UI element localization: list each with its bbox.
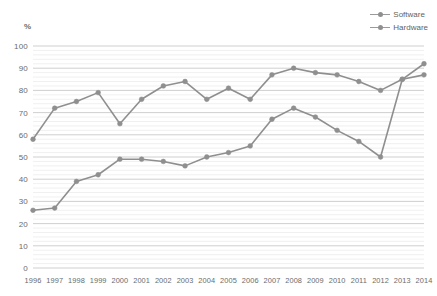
y-axis-tick-label: 60 xyxy=(2,130,28,139)
data-point-software-1999 xyxy=(96,90,101,95)
y-axis-tick-label: 0 xyxy=(2,264,28,273)
data-point-software-2006 xyxy=(248,97,253,102)
data-point-software-2004 xyxy=(204,97,209,102)
data-point-hardware-2004 xyxy=(204,155,209,160)
data-point-hardware-2000 xyxy=(117,157,122,162)
data-point-software-2012 xyxy=(378,88,383,93)
legend-label-hardware: Hardware xyxy=(393,23,428,32)
data-point-hardware-2014 xyxy=(422,72,427,77)
data-point-hardware-2007 xyxy=(270,117,275,122)
legend-item-software[interactable]: Software xyxy=(370,8,428,21)
data-point-hardware-2011 xyxy=(356,139,361,144)
y-axis-tick-label: 90 xyxy=(2,64,28,73)
chart-legend: Software Hardware xyxy=(370,8,428,34)
y-axis-tick-label: 10 xyxy=(2,241,28,250)
legend-label-software: Software xyxy=(393,10,425,19)
series-line-software xyxy=(33,64,424,139)
data-point-hardware-2003 xyxy=(183,163,188,168)
data-point-hardware-2006 xyxy=(248,144,253,149)
legend-marker-software-icon xyxy=(370,10,390,19)
data-point-hardware-1998 xyxy=(74,179,79,184)
data-point-hardware-1997 xyxy=(52,206,57,211)
data-point-software-2014 xyxy=(422,61,427,66)
data-point-software-2001 xyxy=(139,97,144,102)
data-point-hardware-1996 xyxy=(31,208,36,213)
data-point-software-2002 xyxy=(161,84,166,89)
data-point-hardware-2001 xyxy=(139,157,144,162)
data-point-software-2010 xyxy=(335,72,340,77)
data-point-software-2009 xyxy=(313,70,318,75)
y-axis-tick-label: 50 xyxy=(2,153,28,162)
data-point-hardware-1999 xyxy=(96,172,101,177)
data-point-hardware-2012 xyxy=(378,155,383,160)
data-point-hardware-2013 xyxy=(400,77,405,82)
data-point-software-2007 xyxy=(270,72,275,77)
data-point-hardware-2008 xyxy=(291,106,296,111)
data-point-software-1996 xyxy=(31,137,36,142)
data-point-software-2005 xyxy=(226,86,231,91)
x-axis-tick-label: 2014 xyxy=(411,276,437,285)
data-point-hardware-2010 xyxy=(335,128,340,133)
data-point-software-2008 xyxy=(291,66,296,71)
y-axis-tick-label: 20 xyxy=(2,219,28,228)
y-axis-tick-label: 40 xyxy=(2,175,28,184)
legend-item-hardware[interactable]: Hardware xyxy=(370,21,428,34)
legend-marker-hardware-icon xyxy=(370,23,390,32)
y-axis-tick-label: 100 xyxy=(2,42,28,51)
y-axis-tick-label: 30 xyxy=(2,197,28,206)
data-point-software-2011 xyxy=(356,79,361,84)
data-point-software-2000 xyxy=(117,121,122,126)
data-point-software-1997 xyxy=(52,106,57,111)
data-point-hardware-2002 xyxy=(161,159,166,164)
y-axis-tick-label: 70 xyxy=(2,108,28,117)
data-point-hardware-2009 xyxy=(313,115,318,120)
data-point-hardware-2005 xyxy=(226,150,231,155)
data-point-software-2003 xyxy=(183,79,188,84)
data-point-software-1998 xyxy=(74,99,79,104)
y-axis-tick-label: 80 xyxy=(2,86,28,95)
